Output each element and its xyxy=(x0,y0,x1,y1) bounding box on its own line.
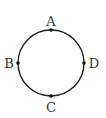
circle-diagram: A B C D xyxy=(0,0,106,118)
circle xyxy=(18,30,84,96)
point-b-dot xyxy=(16,61,20,65)
label-c: C xyxy=(46,100,56,115)
point-d-dot xyxy=(82,61,86,65)
label-b: B xyxy=(4,56,14,71)
label-d: D xyxy=(89,56,99,71)
label-a: A xyxy=(45,14,56,29)
point-c-dot xyxy=(49,94,53,98)
